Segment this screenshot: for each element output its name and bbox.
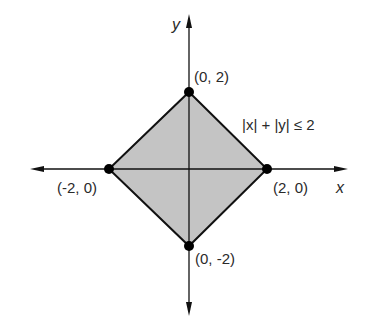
x-axis-left-arrow-icon <box>30 166 44 172</box>
vertex-left <box>104 164 114 174</box>
vertex-right-label: (2, 0) <box>273 179 308 196</box>
vertex-left-label: (-2, 0) <box>57 179 97 196</box>
vertex-right <box>262 164 272 174</box>
vertex-bottom <box>184 241 194 251</box>
vertex-bottom-label: (0, -2) <box>195 250 235 267</box>
y-axis-down-arrow-icon <box>186 302 192 316</box>
y-axis-up-arrow-icon <box>186 14 192 28</box>
vertex-top-label: (0, 2) <box>194 68 229 85</box>
y-axis-label: y <box>171 16 181 33</box>
inequality-label: |x| + |y| ≤ 2 <box>242 116 315 133</box>
diagram-canvas: y x (0, 2) (2, 0) (0, -2) (-2, 0) |x| + … <box>0 0 367 336</box>
vertex-top <box>184 87 194 97</box>
x-axis-right-arrow-icon <box>334 166 348 172</box>
x-axis-label: x <box>335 179 345 196</box>
